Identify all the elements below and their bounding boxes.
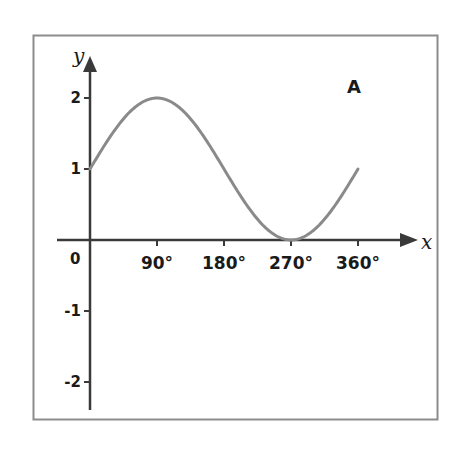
- data-curve: [90, 98, 358, 240]
- panel-label: A: [347, 76, 361, 97]
- chart-frame: [34, 36, 438, 420]
- y-axis-arrow-icon: [83, 56, 97, 72]
- origin-label: 0: [70, 250, 80, 268]
- x-axis-label: x: [421, 230, 432, 254]
- y-tick-label: 2: [71, 89, 81, 107]
- x-axis-arrow-icon: [400, 233, 418, 247]
- x-tick-label: 360°: [336, 253, 380, 273]
- x-tick-label: 180°: [202, 253, 246, 273]
- y-axis-label: y: [72, 44, 85, 68]
- x-axis: [57, 233, 418, 247]
- x-tick-label: 90°: [141, 253, 173, 273]
- y-tick-label: -2: [64, 373, 81, 391]
- y-tick-label: -1: [64, 302, 81, 320]
- chart: 90°180°270°360° 21-1-2 0 x y A: [0, 0, 464, 455]
- y-tick-label: 1: [71, 160, 81, 178]
- x-ticks: 90°180°270°360°: [141, 240, 380, 273]
- y-axis: [83, 56, 97, 410]
- x-tick-label: 270°: [269, 253, 313, 273]
